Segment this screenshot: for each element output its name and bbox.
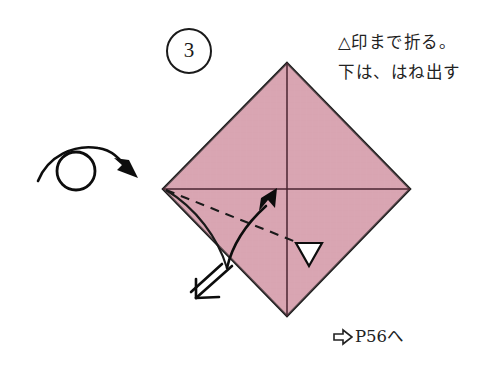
block-arrow-right-icon [333, 328, 353, 346]
step-number-badge: 3 [166, 28, 212, 74]
instruction-line-2: 下は、はね出す [338, 58, 490, 88]
step-number-label: 3 [184, 40, 195, 61]
instruction-line-1: △印まで折る。 [338, 28, 490, 58]
turn-over-icon [38, 147, 138, 190]
page-reference-label: P56へ [355, 329, 404, 346]
instruction-text-block: △印まで折る。 下は、はね出す [338, 28, 490, 88]
page-reference: P56へ [333, 328, 404, 346]
push-in-arrow-icon [191, 264, 232, 298]
